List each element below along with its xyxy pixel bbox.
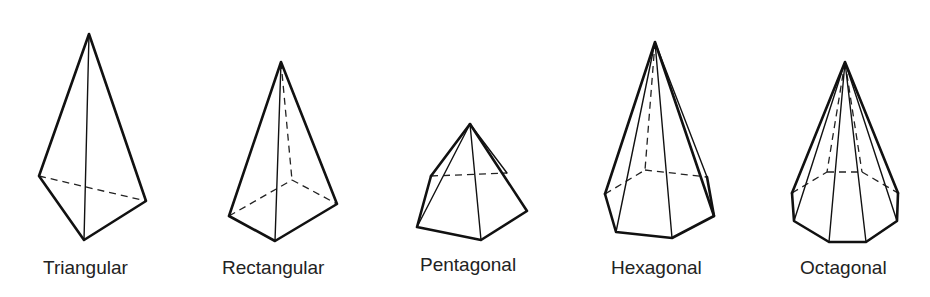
label-rectangular: Rectangular	[222, 258, 324, 277]
octagonal-pyramid	[792, 62, 898, 242]
label-pentagonal: Pentagonal	[420, 255, 516, 274]
label-octagonal: Octagonal	[800, 258, 887, 277]
pyramids-diagram	[0, 0, 930, 297]
label-hexagonal: Hexagonal	[611, 258, 702, 277]
hexagonal-pyramid	[605, 42, 714, 238]
rectangular-pyramid	[229, 62, 337, 241]
triangular-pyramid	[39, 34, 146, 240]
pentagonal-pyramid	[417, 124, 527, 240]
label-triangular: Triangular	[43, 258, 128, 277]
